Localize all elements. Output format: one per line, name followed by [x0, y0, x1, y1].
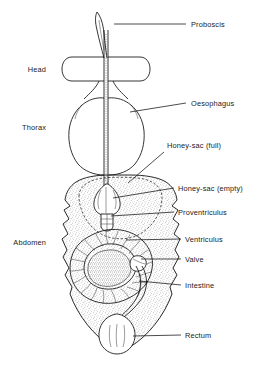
oesophagus-organ	[104, 30, 108, 186]
proventriculus-organ	[101, 214, 113, 231]
label-thorax: Thorax	[22, 123, 46, 132]
label-abdomen: Abdomen	[13, 238, 46, 247]
label-ventriculus: Ventriculus	[185, 235, 223, 244]
leader-oesophagus	[130, 103, 186, 112]
label-head: Head	[28, 65, 46, 74]
label-honey-sac-full: Honey-sac (full)	[167, 141, 221, 150]
label-proventriculus: Proventriculus	[178, 208, 227, 217]
label-honey-sac-empty: Honey-sac (empty)	[178, 184, 243, 193]
label-oesophagus: Oesophagus	[191, 99, 235, 108]
label-intestine: Intestine	[185, 281, 214, 290]
thorax-organ	[69, 98, 144, 175]
label-valve: Valve	[185, 255, 204, 264]
body-region-labels: Head Thorax Abdomen	[13, 65, 46, 247]
proboscis-organ	[96, 12, 108, 58]
organ-labels: Proboscis Oesophagus Honey-sac (full) Ho…	[167, 20, 243, 340]
bee-alimentary-canal-figure: Head Thorax Abdomen Proboscis Oesophagus…	[0, 0, 263, 365]
label-rectum: Rectum	[185, 331, 211, 340]
label-proboscis: Proboscis	[191, 20, 225, 29]
